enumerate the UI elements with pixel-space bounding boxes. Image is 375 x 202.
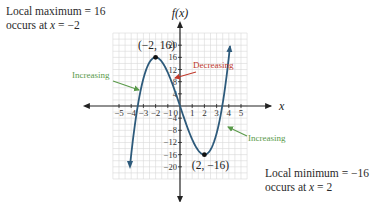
chart-label: −12 [164,137,177,147]
local-min-point-label: (2, −16) [192,159,229,172]
chart-label: 2 [202,108,207,118]
chart-label: 12 [169,65,178,75]
chart-label: 1 [190,108,195,118]
chart-label: −5 [114,108,124,118]
chart-label: 5 [239,108,244,118]
chart-label: −4 [168,113,178,123]
increasing-left-label: Increasing [72,70,110,80]
chart-label: −16 [164,150,177,160]
chart-label: −3 [139,108,149,118]
chart-label: −8 [168,125,177,135]
chart-shape [113,81,139,90]
chart-shape [127,161,133,169]
chart-shape [83,103,90,109]
chart-shape [177,21,183,28]
y-axis-label: f(x) [172,6,189,20]
chart-shape [175,72,196,78]
point-marker [153,55,158,60]
chart-label: 3 [214,108,219,118]
chart-label: −2 [151,108,161,118]
tick-labels: −5−4−3−2−1012345−20−16−12−8−448121620f(x… [114,6,285,172]
decreasing-label: Decreasing [193,60,234,70]
local-max-point-label: (−2, 16) [138,39,175,52]
x-axis-label: x [278,99,285,113]
chart-label: 16 [169,52,178,62]
point-marker [202,152,207,157]
chart-shape [177,196,183,202]
chart-label: −4 [126,108,136,118]
chart-shape [228,127,247,136]
function-graph: −5−4−3−2−1012345−20−16−12−8−448121620f(x… [0,0,375,202]
increasing-right-label: Increasing [248,133,286,143]
chart-label: 4 [227,108,232,118]
chart-label: −20 [164,162,177,172]
